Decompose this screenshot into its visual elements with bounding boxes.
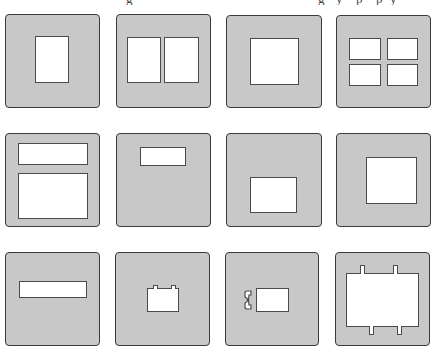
panel-11: [225, 252, 319, 346]
aperture-top-left: [349, 38, 381, 60]
panel-2: [116, 14, 211, 108]
panel-7: [226, 133, 322, 227]
aperture-top-right: [387, 38, 418, 60]
aperture-right: [164, 37, 199, 83]
aperture-large: [18, 173, 88, 219]
aperture: [366, 157, 417, 204]
aperture-left: [127, 37, 161, 83]
panel-3: [226, 15, 322, 108]
cropped-caption: g gyppy: [0, 0, 433, 5]
panel-9: [5, 252, 100, 346]
aperture-bottom-left: [349, 64, 381, 86]
aperture-strip: [140, 147, 186, 166]
panel-12: [335, 252, 430, 346]
panel-10: [115, 252, 210, 346]
aperture: [35, 36, 69, 83]
aperture: [250, 177, 297, 213]
panel-5: [5, 133, 100, 227]
aperture-bottom-right: [387, 64, 418, 86]
panel-8: [336, 133, 431, 227]
panel-4: [336, 15, 431, 108]
aperture: [147, 288, 179, 312]
aperture-strip: [19, 281, 87, 298]
panel-1: [5, 14, 100, 108]
aperture: [250, 38, 299, 85]
clip-notch-icon: [244, 290, 253, 310]
aperture-strip: [18, 143, 88, 165]
aperture: [256, 288, 289, 312]
panel-6: [116, 133, 211, 227]
aperture-large: [346, 273, 419, 327]
